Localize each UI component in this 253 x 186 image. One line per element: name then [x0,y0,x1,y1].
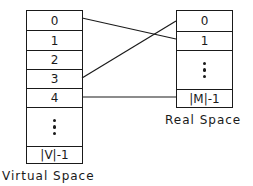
real-cell-0: 0 [177,11,232,31]
real-cell-1: 1 [177,31,232,50]
vertical-ellipsis-icon [203,62,207,79]
virtual-cell-1: 1 [27,30,82,50]
virtual-cell-label: 2 [51,53,59,67]
real-cell-label: |M|-1 [189,92,219,106]
virtual-cell-last: |V|-1 [27,146,82,163]
real-cell-last: |M|-1 [177,89,232,107]
real-cell-label: 0 [201,14,209,28]
real-space-label: Real Space [165,113,241,127]
virtual-cell-label: 4 [51,91,59,105]
mapping-line-v3-r0 [82,21,176,78]
virtual-cell-label: 1 [51,34,59,48]
virtual-cell-2: 2 [27,50,82,69]
real-space-stack: 0 1 |M|-1 [176,10,233,108]
virtual-space-label: Virtual Space [2,169,95,183]
real-cell-ellipsis [177,50,232,89]
virtual-cell-4: 4 [27,88,82,107]
vertical-ellipsis-icon [53,119,57,136]
real-cell-label: 1 [201,34,209,48]
mapping-line-v0-r1 [82,18,176,39]
virtual-cell-label: |V|-1 [40,148,68,162]
virtual-cell-ellipsis [27,107,82,146]
virtual-cell-3: 3 [27,69,82,88]
virtual-cell-label: 0 [51,14,59,28]
virtual-cell-label: 3 [51,72,59,86]
virtual-space-stack: 0 1 2 3 4 |V|-1 [26,10,83,164]
virtual-cell-0: 0 [27,11,82,30]
